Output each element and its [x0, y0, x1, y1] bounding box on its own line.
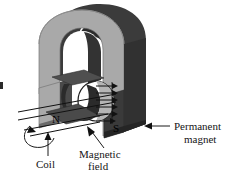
magnet-right-leg-outer — [124, 38, 146, 132]
permanent-magnet-label-line1: Permanent — [174, 120, 221, 132]
permanent-magnet-callout: Permanent magnet — [144, 120, 221, 145]
figure-container: N S Permanent magnet Coil Magnetic — [0, 0, 227, 178]
coil-label: Coil — [36, 158, 55, 170]
permanent-magnet-label-line2: magnet — [184, 133, 216, 145]
coil-callout: Coil — [36, 132, 55, 170]
edge-artifact-mark — [0, 82, 3, 89]
coil-assembly — [18, 70, 116, 147]
south-pole-label: S — [113, 122, 119, 134]
north-pole-label: N — [52, 113, 60, 125]
magnetic-field-label-line1: Magnetic — [79, 148, 121, 160]
magnetic-field-label-line2: field — [88, 160, 109, 172]
magnet-coil-diagram: N S Permanent magnet Coil Magnetic — [0, 0, 227, 178]
